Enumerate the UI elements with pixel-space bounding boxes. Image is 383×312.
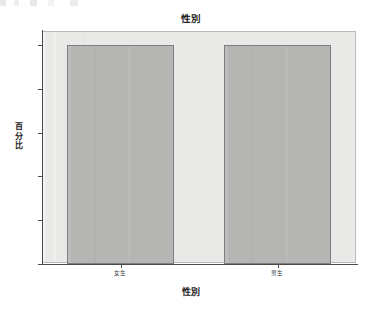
x-axis-line <box>40 264 358 265</box>
x-axis-title: 性別 <box>0 285 383 298</box>
y-tick-mark <box>38 176 42 177</box>
y-axis-title-char-2: 分 <box>12 132 26 142</box>
bar-男生[interactable] <box>224 45 332 264</box>
y-axis-title-char-3: 比 <box>12 141 26 151</box>
x-category-label-女生: 女生 <box>86 269 156 277</box>
y-axis-title-char-1: 百 <box>12 122 26 132</box>
x-category-label-男生: 男生 <box>243 269 313 277</box>
y-tick-mark <box>38 45 42 46</box>
x-tick-mark <box>121 264 122 268</box>
bar-女生[interactable] <box>67 45 175 264</box>
scan-noise-artifact <box>0 0 383 6</box>
y-tick-mark <box>38 89 42 90</box>
y-tick-mark <box>38 133 42 134</box>
chart-title: 性別 <box>0 11 383 25</box>
y-tick-mark <box>38 220 42 221</box>
y-axis-line <box>42 30 43 265</box>
x-tick-mark <box>278 264 279 268</box>
y-axis-title: 百 分 比 <box>12 122 26 151</box>
y-tick-mark <box>38 264 42 265</box>
bar-chart-figure: 性別 百 分 比 01020304050 女生男生 性別 <box>0 0 383 312</box>
